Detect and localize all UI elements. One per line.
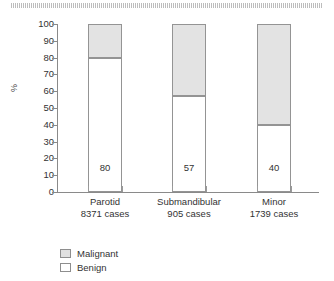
x-axis-tick-mark <box>291 186 292 192</box>
x-axis-tick-mark <box>172 186 173 192</box>
bar-parotid[interactable]: 80 <box>88 24 122 192</box>
y-axis-tick-mark <box>52 108 57 109</box>
x-axis-category-submandibular: Submandibular905 cases <box>144 196 234 220</box>
y-axis-tick-mark <box>52 91 57 92</box>
y-axis-title: % <box>9 84 19 92</box>
bar-value-label: 57 <box>172 162 206 173</box>
x-axis-tick-mark <box>122 186 123 192</box>
x-axis-category-minor: Minor1739 cases <box>229 196 319 220</box>
x-axis-category-parotid: Parotid8371 cases <box>60 196 150 220</box>
y-axis-tick-mark <box>52 58 57 59</box>
legend-label: Malignant <box>77 248 118 259</box>
y-axis-tick-mark <box>52 24 57 25</box>
y-axis-tick-mark <box>52 175 57 176</box>
y-axis-line <box>57 24 58 193</box>
category-case-count: 8371 cases <box>60 208 150 220</box>
bar-segment-benign[interactable] <box>257 125 291 192</box>
bar-segment-benign[interactable] <box>172 96 206 192</box>
y-axis-tick-mark <box>52 142 57 143</box>
bar-value-label: 80 <box>88 162 122 173</box>
bar-value-label: 40 <box>257 162 291 173</box>
x-axis-tick-mark <box>88 186 89 192</box>
bar-segment-malignant[interactable] <box>172 24 206 96</box>
y-axis-tick-mark <box>52 158 57 159</box>
bar-minor[interactable]: 40 <box>257 24 291 192</box>
category-case-count: 1739 cases <box>229 208 319 220</box>
bar-submandibular[interactable]: 57 <box>172 24 206 192</box>
legend-item-malignant[interactable]: Malignant <box>60 246 118 260</box>
y-axis-tick-mark <box>52 125 57 126</box>
legend-swatch-malignant-icon <box>60 249 71 258</box>
category-name: Minor <box>229 196 319 208</box>
category-name: Parotid <box>60 196 150 208</box>
category-name: Submandibular <box>144 196 234 208</box>
bar-segment-malignant[interactable] <box>257 24 291 125</box>
chart-legend: MalignantBenign <box>60 246 118 274</box>
y-axis-tick-mark <box>52 74 57 75</box>
x-axis-tick-mark <box>257 186 258 192</box>
bar-segment-malignant[interactable] <box>88 24 122 58</box>
stacked-bar-chart: % 1009080706050403020100 805740 Parotid8… <box>0 0 334 281</box>
category-case-count: 905 cases <box>144 208 234 220</box>
legend-label: Benign <box>77 262 107 273</box>
x-axis-tick-mark <box>206 186 207 192</box>
legend-item-benign[interactable]: Benign <box>60 260 118 274</box>
legend-swatch-benign-icon <box>60 263 71 272</box>
y-axis-tick-mark <box>52 41 57 42</box>
x-axis-line <box>57 192 319 193</box>
y-axis-tick-mark <box>52 192 57 193</box>
